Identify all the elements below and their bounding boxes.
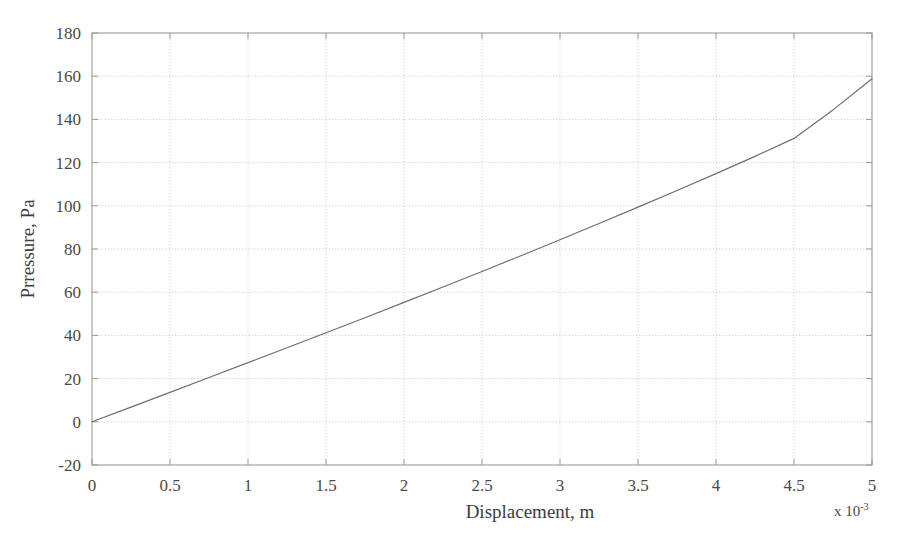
x-tick-label: 2 <box>400 476 409 495</box>
y-tick-label: -20 <box>58 456 81 475</box>
y-tick-label: 0 <box>73 413 82 432</box>
figure-canvas: 00.511.522.533.544.55 -20020406080100120… <box>0 0 899 552</box>
x-axis-multiplier-exponent: -3 <box>860 501 868 512</box>
x-tick-label: 3.5 <box>627 476 648 495</box>
x-tick-label: 1.5 <box>315 476 336 495</box>
y-tick-label: 100 <box>56 197 82 216</box>
x-axis-multiplier-base: x 10 <box>834 503 860 519</box>
y-tick-label: 120 <box>56 154 82 173</box>
y-tick-label: 180 <box>56 24 82 43</box>
x-tick-label: 2.5 <box>471 476 492 495</box>
x-tick-label: 0.5 <box>159 476 180 495</box>
y-tick-label: 140 <box>56 110 82 129</box>
x-tick-label: 3 <box>556 476 565 495</box>
x-tick-label: 4.5 <box>783 476 804 495</box>
chart-background <box>0 0 899 552</box>
x-axis-title: Displacement, m <box>466 501 595 522</box>
y-axis-title: Prressure, Pa <box>17 199 38 299</box>
x-tick-label: 0 <box>88 476 97 495</box>
x-tick-label: 4 <box>712 476 721 495</box>
x-tick-label: 5 <box>868 476 877 495</box>
x-tick-label: 1 <box>244 476 253 495</box>
y-tick-label: 160 <box>56 67 82 86</box>
y-tick-label: 20 <box>64 370 81 389</box>
y-tick-label: 40 <box>64 326 81 345</box>
line-chart: 00.511.522.533.544.55 -20020406080100120… <box>0 0 899 552</box>
y-tick-label: 80 <box>64 240 81 259</box>
y-tick-label: 60 <box>64 283 81 302</box>
